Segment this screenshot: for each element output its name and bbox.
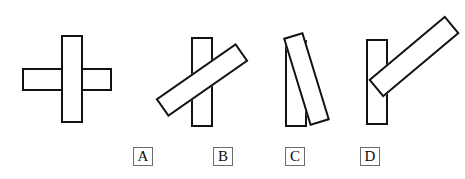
option-label-a[interactable]: A xyxy=(133,147,153,166)
figure-options-group xyxy=(0,0,465,145)
option-label-row: A B C D xyxy=(0,143,465,179)
figure-a-vertical-bar xyxy=(61,35,83,123)
option-label-c[interactable]: C xyxy=(285,147,305,166)
option-label-b[interactable]: B xyxy=(213,147,233,166)
figure-canvas: A B C D xyxy=(0,0,465,179)
option-label-d[interactable]: D xyxy=(360,147,380,166)
